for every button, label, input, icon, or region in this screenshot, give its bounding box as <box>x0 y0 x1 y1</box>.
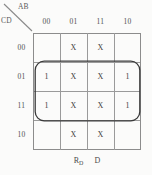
kmap-cell-r1-c2: X <box>87 62 114 91</box>
kmap-cell-r2-c0: 1 <box>33 91 60 120</box>
row-header-3: 10 <box>12 130 31 139</box>
kmap-cell-r3-c0 <box>33 120 60 149</box>
column-header-1: 01 <box>60 17 87 26</box>
kmap-cell-r3-c3 <box>114 120 141 149</box>
caption-term-second: D <box>94 156 100 165</box>
kmap-cell-r1-c3: 1 <box>114 62 141 91</box>
diagram-caption: RDD <box>33 156 141 166</box>
karnaugh-map-diagram: AB CD 00 01 11 10 00 01 11 10 X X 1 X X … <box>0 0 152 175</box>
kmap-cell-r3-c2: X <box>87 120 114 149</box>
kmap-cell-r2-c1: X <box>60 91 87 120</box>
row-header-0: 00 <box>12 43 31 52</box>
axis-corner-header: AB CD <box>0 0 34 34</box>
column-header-3: 10 <box>114 17 141 26</box>
kmap-cell-r0-c1: X <box>60 33 87 62</box>
row-header-2: 11 <box>12 101 31 110</box>
axis-label-ab: AB <box>18 2 29 11</box>
kmap-cell-r0-c2: X <box>87 33 114 62</box>
kmap-cell-r0-c0 <box>33 33 60 62</box>
kmap-cell-r0-c3 <box>114 33 141 62</box>
kmap-cell-r2-c2: X <box>87 91 114 120</box>
caption-term-subscript: D <box>79 160 83 166</box>
column-header-2: 11 <box>87 17 114 26</box>
row-header-1: 01 <box>12 72 31 81</box>
axis-label-cd: CD <box>1 16 12 25</box>
kmap-cell-r2-c3: 1 <box>114 91 141 120</box>
kmap-cell-r1-c0: 1 <box>33 62 60 91</box>
kmap-grid: X X 1 X X 1 1 X X 1 X X <box>33 33 141 150</box>
column-header-0: 00 <box>33 17 60 26</box>
kmap-cell-r3-c1: X <box>60 120 87 149</box>
kmap-cell-r1-c1: X <box>60 62 87 91</box>
